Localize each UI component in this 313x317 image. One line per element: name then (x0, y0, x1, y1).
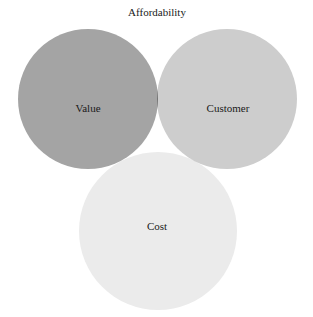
aim-label: Aim (148, 142, 168, 154)
diagram-title: Affordability (128, 6, 186, 18)
customer-label: Customer (207, 102, 250, 114)
venn-svg (0, 0, 313, 317)
value-label: Value (75, 102, 100, 114)
customer-circle (157, 29, 297, 169)
venn-diagram: Affordability Value Customer Cost Aim (0, 0, 313, 317)
value-circle (18, 29, 158, 169)
cost-label: Cost (147, 220, 167, 232)
